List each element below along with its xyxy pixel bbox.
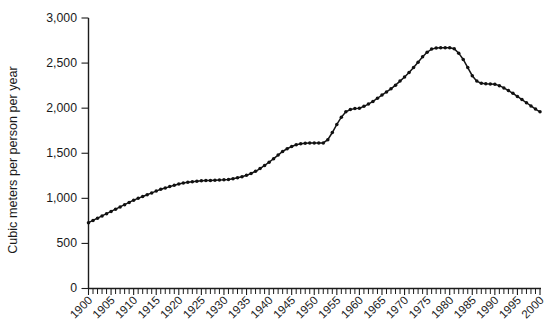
data-point-marker <box>222 178 226 182</box>
data-point-marker <box>272 157 276 161</box>
x-tick-label: 1930 <box>202 293 229 320</box>
data-point-marker <box>91 219 95 223</box>
data-point-marker <box>344 110 348 114</box>
data-point-marker <box>389 87 393 91</box>
data-point-marker <box>358 106 362 110</box>
chart-container: Cubic meters per person per year 05001,0… <box>0 0 551 335</box>
y-tick-mark-group <box>82 18 89 289</box>
data-point-marker <box>141 195 145 199</box>
data-point-marker <box>529 104 533 108</box>
data-point-marker <box>462 58 466 62</box>
data-point-marker <box>186 181 190 185</box>
data-point-marker <box>308 141 312 145</box>
data-point-marker <box>182 181 186 185</box>
y-tick-label: 500 <box>56 236 77 250</box>
data-point-marker <box>127 201 131 205</box>
data-point-marker <box>313 141 317 145</box>
data-point-marker <box>145 193 149 197</box>
x-tick-label: 1975 <box>406 293 433 320</box>
data-point-marker <box>249 172 253 176</box>
data-point-marker <box>326 138 330 142</box>
data-point-marker <box>394 83 398 87</box>
data-point-marker <box>154 189 158 193</box>
x-tick-label: 1915 <box>135 293 162 320</box>
data-point-marker <box>385 90 389 94</box>
data-point-marker <box>457 51 461 55</box>
data-point-marker <box>204 179 208 183</box>
data-point-marker <box>227 178 231 182</box>
data-point-marker <box>371 100 375 104</box>
data-point-marker <box>475 79 479 83</box>
data-point-marker <box>398 79 402 83</box>
data-point-marker <box>100 214 104 218</box>
data-point-marker <box>164 186 168 190</box>
data-point-marker <box>118 205 122 209</box>
x-tick-label: 1925 <box>180 293 207 320</box>
data-point-marker <box>290 145 294 149</box>
y-axis-title: Cubic meters per person per year <box>6 66 20 254</box>
data-point-marker <box>480 82 484 86</box>
data-point-marker <box>276 153 280 157</box>
data-point-marker <box>258 167 262 171</box>
data-point-marker <box>367 102 371 106</box>
x-tick-label: 1920 <box>157 293 184 320</box>
data-point-marker <box>245 174 249 178</box>
line-chart: Cubic meters per person per year 05001,0… <box>0 0 551 335</box>
x-tick-label: 1935 <box>225 293 252 320</box>
y-tick-label: 0 <box>70 281 77 295</box>
data-point-marker <box>525 101 529 105</box>
data-point-marker <box>340 115 344 119</box>
data-point-marker <box>430 47 434 51</box>
data-point-marker <box>516 95 520 99</box>
data-point-marker <box>285 147 289 151</box>
x-tick-label: 1995 <box>496 293 523 320</box>
data-point-marker <box>123 203 127 207</box>
data-point-marker <box>177 182 181 186</box>
data-point-marker <box>173 184 177 188</box>
data-point-marker <box>493 83 497 87</box>
data-point-marker <box>254 170 258 174</box>
x-tick-label: 1955 <box>315 293 342 320</box>
data-point-marker <box>159 188 163 192</box>
data-point-marker <box>240 175 244 179</box>
data-point-marker <box>303 141 307 145</box>
data-point-marker <box>150 191 154 195</box>
data-point-marker <box>331 131 335 135</box>
data-markers-series-0 <box>87 46 542 224</box>
y-tick-label: 2,000 <box>46 101 77 115</box>
data-point-marker <box>231 177 235 181</box>
x-minor-tick-group <box>89 289 541 296</box>
y-tick-label: 2,500 <box>46 56 77 70</box>
data-point-marker <box>87 221 91 225</box>
data-point-marker <box>200 179 204 183</box>
data-point-marker <box>511 92 515 96</box>
data-point-marker <box>299 142 303 146</box>
data-point-marker <box>489 82 493 86</box>
data-point-marker <box>376 97 380 101</box>
data-point-marker <box>218 178 222 182</box>
data-point-marker <box>425 51 429 55</box>
data-point-marker <box>349 108 353 112</box>
data-point-marker <box>191 180 195 184</box>
data-point-marker <box>421 55 425 59</box>
x-tick-label: 1970 <box>383 293 410 320</box>
data-point-marker <box>443 46 447 50</box>
data-point-marker <box>448 46 452 50</box>
x-tick-label: 1945 <box>270 293 297 320</box>
x-tick-label: 1940 <box>248 293 275 320</box>
data-point-marker <box>263 164 267 168</box>
data-point-marker <box>236 176 240 180</box>
data-point-marker <box>281 150 285 154</box>
data-point-marker <box>538 110 542 114</box>
data-point-marker <box>416 60 420 64</box>
data-point-marker <box>362 105 366 109</box>
data-point-marker <box>471 74 475 78</box>
data-point-marker <box>434 46 438 50</box>
data-point-marker <box>168 185 172 189</box>
data-point-marker <box>267 161 271 165</box>
x-tick-label-group: 1900190519101915192019251930193519401945… <box>67 293 546 320</box>
data-point-marker <box>195 179 199 183</box>
data-point-marker <box>105 212 109 216</box>
data-point-marker <box>534 107 538 111</box>
data-point-marker <box>403 75 407 79</box>
